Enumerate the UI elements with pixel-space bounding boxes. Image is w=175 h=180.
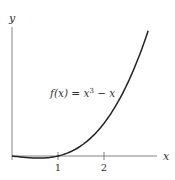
x-tick-label-1: 1 [55, 162, 61, 173]
y-axis-label: y [8, 12, 16, 25]
function-plot: 1 2 x y f(x) = x3 − x [0, 0, 175, 180]
function-annotation: f(x) = x3 − x [49, 87, 115, 99]
x-tick-label-2: 2 [101, 162, 107, 173]
x-axis-label: x [163, 150, 170, 163]
